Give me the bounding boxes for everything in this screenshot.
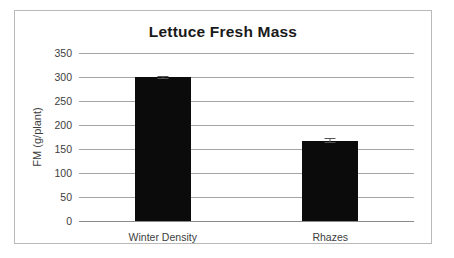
- error-bar-cap-top: [325, 138, 336, 139]
- gridline: [79, 173, 414, 174]
- bar-group[interactable]: Rhazes: [302, 53, 358, 221]
- y-axis-tick-label: 150: [54, 143, 72, 155]
- gridline: [79, 77, 414, 78]
- gridline: [79, 125, 414, 126]
- y-axis-tick-label: 100: [54, 167, 72, 179]
- y-axis-tick-label: 200: [54, 119, 72, 131]
- gridline: [79, 101, 414, 102]
- y-axis-tick-label: 0: [66, 215, 72, 227]
- chart-title: Lettuce Fresh Mass: [15, 23, 431, 41]
- bar[interactable]: [302, 141, 358, 221]
- y-axis-tick-label: 50: [60, 191, 72, 203]
- error-bar: [325, 138, 336, 143]
- gridline: [79, 197, 414, 198]
- chart-frame: Lettuce Fresh Mass FM (g/plant) 05010015…: [14, 10, 432, 244]
- x-axis-line: [79, 221, 414, 222]
- error-bar-cap-top: [157, 76, 168, 77]
- y-axis-tick-label: 250: [54, 95, 72, 107]
- x-axis-category-label: Rhazes: [312, 231, 348, 243]
- y-axis-tick-label: 300: [54, 71, 72, 83]
- gridline: [79, 149, 414, 150]
- gridline: [79, 53, 414, 54]
- y-axis-tick-label: 350: [54, 47, 72, 59]
- x-axis-category-label: Winter Density: [129, 231, 197, 243]
- error-bar: [157, 76, 168, 80]
- error-bar-cap-bottom: [325, 142, 336, 143]
- plot-area: 050100150200250300350Winter DensityRhaze…: [79, 53, 414, 221]
- bar-group[interactable]: Winter Density: [135, 53, 191, 221]
- error-bar-cap-bottom: [157, 78, 168, 79]
- bar[interactable]: [135, 77, 191, 221]
- y-axis-title: FM (g/plant): [31, 107, 43, 166]
